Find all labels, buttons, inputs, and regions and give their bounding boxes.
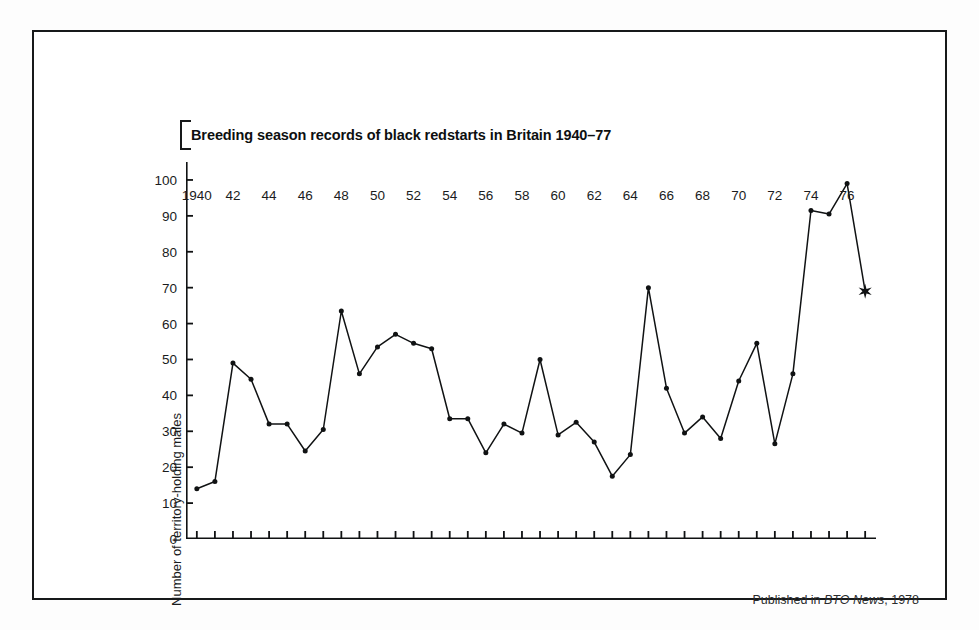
data-point — [483, 450, 488, 455]
data-point — [845, 181, 850, 186]
chart-title: Breeding season records of black redstar… — [191, 127, 611, 143]
data-point — [501, 422, 506, 427]
data-point — [411, 341, 416, 346]
data-point — [194, 486, 199, 491]
x-tick-label: 74 — [803, 188, 818, 203]
data-point — [827, 212, 832, 217]
y-tick-label: 80 — [162, 244, 177, 259]
x-tick-marks — [197, 531, 865, 539]
figure-border: Breeding season records of black redstar… — [32, 30, 947, 600]
x-tick-label: 56 — [478, 188, 493, 203]
line-chart-svg — [186, 162, 876, 539]
axis-spines — [187, 162, 877, 539]
data-point — [339, 309, 344, 314]
data-point — [230, 361, 235, 366]
data-point — [285, 422, 290, 427]
x-tick-label: 46 — [298, 188, 313, 203]
data-point — [303, 449, 308, 454]
data-point — [465, 416, 470, 421]
x-tick-label: 50 — [370, 188, 385, 203]
data-point — [429, 346, 434, 351]
title-bracket-decoration — [180, 120, 191, 150]
data-point — [592, 440, 597, 445]
x-tick-label: 42 — [225, 188, 240, 203]
x-tick-label: 58 — [514, 188, 529, 203]
y-tick-label: 90 — [162, 208, 177, 223]
y-tick-label: 10 — [162, 496, 177, 511]
x-tick-label: 68 — [695, 188, 710, 203]
data-point — [808, 208, 813, 213]
data-point — [538, 357, 543, 362]
caption-prefix: Published in — [752, 593, 824, 607]
data-point — [393, 332, 398, 337]
x-tick-label: 60 — [551, 188, 566, 203]
caption-suffix: , 1978 — [884, 593, 919, 607]
x-tick-label: 1940 — [182, 188, 212, 203]
data-point — [249, 377, 254, 382]
y-tick-label: 30 — [162, 424, 177, 439]
data-point — [700, 414, 705, 419]
figure-caption: Published in BTO News, 1978 — [34, 593, 949, 607]
data-point — [790, 371, 795, 376]
x-tick-label: 44 — [262, 188, 277, 203]
data-point — [321, 427, 326, 432]
y-tick-label: 40 — [162, 388, 177, 403]
figure-canvas: Breeding season records of black redstar… — [0, 0, 979, 630]
data-point — [375, 344, 380, 349]
data-point — [646, 285, 651, 290]
x-tick-label: 66 — [659, 188, 674, 203]
y-tick-label: 20 — [162, 460, 177, 475]
x-tick-label: 52 — [406, 188, 421, 203]
y-tick-label: 100 — [154, 172, 177, 187]
caption-source: BTO News — [824, 593, 884, 607]
plot-area: 0102030405060708090100 19404244464850525… — [186, 162, 876, 539]
y-tick-label: 50 — [162, 352, 177, 367]
x-tick-label: 64 — [623, 188, 638, 203]
data-point — [718, 436, 723, 441]
x-tick-label: 54 — [442, 188, 457, 203]
data-point-star-marker — [859, 284, 872, 299]
data-point — [736, 379, 741, 384]
x-tick-label: 76 — [840, 188, 855, 203]
y-axis-label-wrapper: Number of territory-holding males — [138, 202, 164, 472]
data-point — [610, 474, 615, 479]
data-point — [628, 452, 633, 457]
data-point — [664, 386, 669, 391]
data-point — [519, 431, 524, 436]
data-point — [357, 371, 362, 376]
x-tick-label: 48 — [334, 188, 349, 203]
data-point — [556, 432, 561, 437]
data-point — [772, 441, 777, 446]
data-point — [682, 431, 687, 436]
x-tick-label: 72 — [767, 188, 782, 203]
y-tick-label: 60 — [162, 316, 177, 331]
x-tick-label: 62 — [587, 188, 602, 203]
data-point — [267, 422, 272, 427]
y-tick-label: 70 — [162, 280, 177, 295]
data-line — [197, 184, 865, 489]
data-point — [574, 420, 579, 425]
data-point — [754, 341, 759, 346]
data-point-group — [194, 181, 871, 491]
data-point — [447, 416, 452, 421]
y-tick-label: 0 — [169, 532, 177, 547]
x-tick-label: 70 — [731, 188, 746, 203]
data-point — [212, 479, 217, 484]
